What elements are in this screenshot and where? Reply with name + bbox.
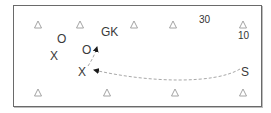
goalkeeper-label: GK <box>101 26 118 38</box>
cone-icon <box>104 89 111 96</box>
diagram-canvas <box>0 0 271 113</box>
defender-mid-label: X <box>78 66 86 78</box>
width-dimension-label: 30 <box>199 15 210 25</box>
cone-icon <box>240 89 247 96</box>
attacker-mid-label: O <box>82 44 91 56</box>
cone-icon <box>77 21 84 28</box>
cone-icon <box>170 21 177 28</box>
cone-icon <box>131 21 138 28</box>
cone-icon <box>35 89 42 96</box>
height-dimension-label: 10 <box>238 31 249 41</box>
cone-icon <box>35 21 42 28</box>
attacker-top-label: O <box>57 33 66 45</box>
cone-icon <box>240 21 247 28</box>
defender-left-label: X <box>50 50 58 62</box>
server-label: S <box>241 66 249 78</box>
cone-icon <box>172 89 179 96</box>
pass-arrow-server-to-defender <box>94 69 240 80</box>
